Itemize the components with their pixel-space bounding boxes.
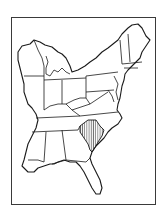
eastern-us-map <box>0 0 166 213</box>
